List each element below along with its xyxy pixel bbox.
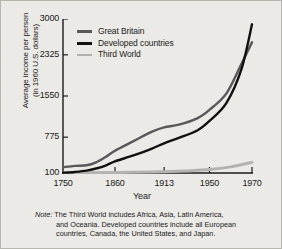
y-tick-marks — [63, 19, 68, 173]
legend-item: Developed countries — [77, 38, 174, 50]
y-tick-label: 775 — [25, 131, 59, 141]
y-axis-tick-labels: 100775155023253000 — [23, 19, 59, 174]
y-tick-label: 2325 — [25, 49, 59, 59]
note-line-3: countries, Canada, the United States, an… — [35, 229, 271, 239]
legend-swatch-icon — [77, 54, 92, 57]
legend-swatch-icon — [77, 42, 92, 45]
x-tick-label: 1970 — [242, 178, 261, 188]
note-line-2: and Oceania. Developed countries include… — [35, 220, 271, 230]
x-tick-label: 1950 — [200, 178, 219, 188]
legend-swatch-icon — [77, 30, 92, 33]
x-tick-label: 1913 — [154, 178, 173, 188]
y-tick-label: 3000 — [25, 13, 59, 23]
note-text-1: The Third World includes Africa, Asia, L… — [54, 210, 223, 219]
y-tick-label: 1550 — [25, 90, 59, 100]
legend-item: Third World — [77, 49, 174, 61]
x-axis-tick-labels: 17501860191319501970 — [62, 177, 254, 191]
legend-label: Developed countries — [98, 38, 174, 50]
chart-figure: Average income per person (in 1960 U.S. … — [0, 0, 282, 249]
x-tick-label: 1860 — [105, 178, 124, 188]
series-line-great-britain — [63, 42, 252, 167]
legend-item: Great Britain — [77, 26, 174, 38]
note-label: Note: — [35, 210, 52, 219]
x-tick-label: 1750 — [53, 178, 72, 188]
x-axis-title: Year — [1, 191, 282, 201]
chart-legend: Great BritainDeveloped countriesThird Wo… — [77, 26, 174, 61]
legend-label: Great Britain — [98, 26, 144, 38]
y-tick-label: 100 — [25, 167, 59, 177]
note-line-1: Note: The Third World includes Africa, A… — [35, 210, 271, 220]
chart-note: Note: The Third World includes Africa, A… — [35, 210, 271, 239]
legend-label: Third World — [98, 49, 141, 61]
